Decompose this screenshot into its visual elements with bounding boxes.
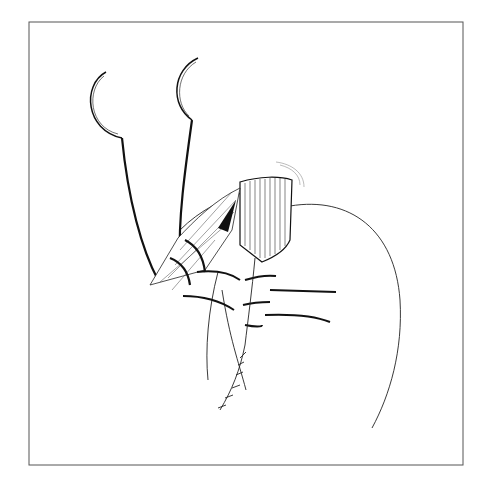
tissue-stump [240,162,304,262]
suture-threads [183,271,336,326]
suture-line [218,258,255,410]
surgical-illustration [0,0,491,482]
retractor-left [91,72,158,280]
